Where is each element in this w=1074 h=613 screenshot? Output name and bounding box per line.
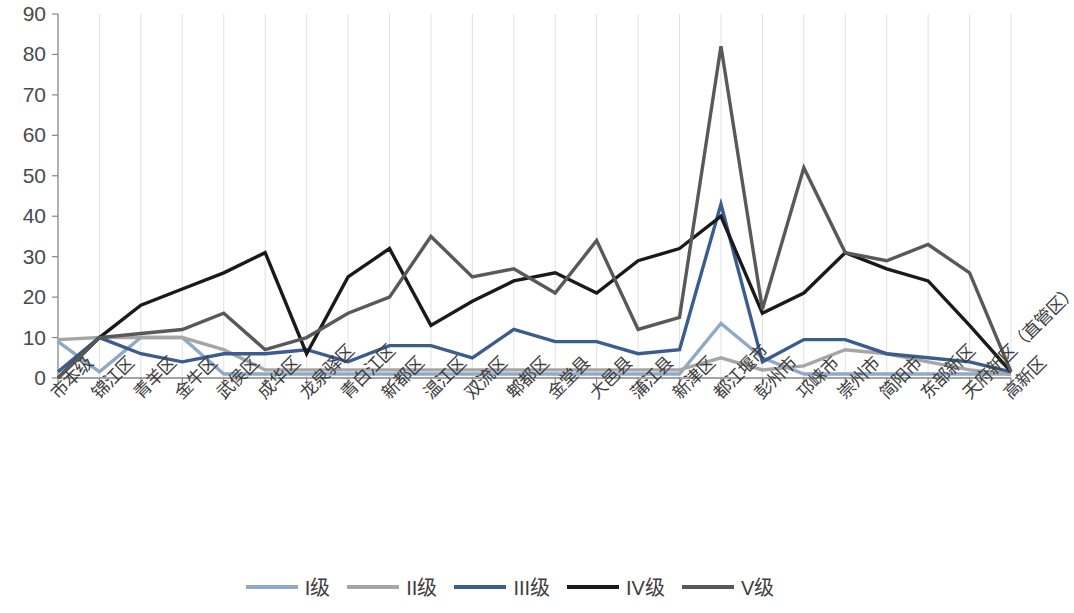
legend-item[interactable]: II级 [347, 572, 437, 601]
series-line-V级 [58, 46, 1011, 378]
y-axis-tick-label: 40 [0, 205, 46, 226]
legend-item[interactable]: IV级 [567, 572, 665, 601]
y-axis-tick-label: 80 [0, 43, 46, 64]
y-axis-tick-label: 30 [0, 246, 46, 267]
legend-item[interactable]: III级 [454, 572, 550, 601]
legend-label: V级 [741, 572, 774, 601]
y-axis-tick-label: 90 [0, 3, 46, 24]
legend-swatch-icon [454, 585, 506, 589]
legend-swatch-icon [567, 585, 619, 589]
legend-label: IV级 [626, 572, 665, 601]
legend-label: I级 [305, 572, 331, 601]
legend-item[interactable]: I级 [246, 572, 331, 601]
y-axis-tick-label: 20 [0, 286, 46, 307]
series-line-III级 [58, 204, 1011, 372]
chart-legend: I级II级III级IV级V级 [0, 572, 1037, 601]
legend-swatch-icon [347, 585, 399, 589]
series-lines [58, 46, 1011, 378]
legend-label: II级 [406, 572, 437, 601]
y-axis-tick-label: 10 [0, 327, 46, 348]
y-axis-tick-label: 0 [0, 367, 46, 388]
legend-swatch-icon [246, 585, 298, 589]
y-axis-tick-label: 50 [0, 165, 46, 186]
y-axis-ticks [52, 14, 58, 378]
y-axis-tick-label: 60 [0, 124, 46, 145]
legend-label: III级 [513, 572, 550, 601]
y-axis-tick-label: 70 [0, 84, 46, 105]
legend-swatch-icon [682, 585, 734, 589]
legend-item[interactable]: V级 [682, 572, 774, 601]
